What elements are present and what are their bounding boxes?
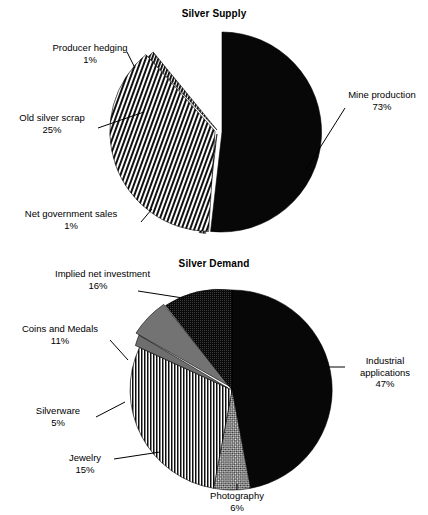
demand-label-industrial-applications-percent: 47% — [344, 378, 426, 390]
demand-label-silverware-percent: 5% — [22, 417, 94, 429]
supply-slice-old-silver-scrap — [110, 55, 215, 232]
demand-label-jewelry: Jewelry 15% — [58, 452, 112, 475]
supply-label-old-silver-scrap: Old silver scrap 25% — [0, 112, 104, 135]
leader-line-coins-and-medals — [110, 340, 128, 360]
silver-supply-demand-figure: Silver Supply — [0, 0, 428, 515]
demand-label-implied-net-investment-percent: 16% — [55, 280, 141, 292]
supply-label-producer-hedging-name: Producer hedging — [53, 42, 128, 53]
demand-label-photography-percent: 6% — [188, 502, 286, 514]
demand-slice-industrial-applications — [232, 290, 332, 488]
demand-label-implied-net-investment: Implied net investment 16% — [55, 268, 141, 291]
demand-label-jewelry-percent: 15% — [58, 464, 112, 476]
supply-label-old-silver-scrap-percent: 25% — [0, 124, 104, 136]
leader-line-silverware — [96, 402, 125, 417]
supply-label-net-government-sales-name: Net government sales — [25, 208, 117, 219]
supply-label-mine-production-percent: 73% — [337, 101, 427, 113]
demand-label-coins-and-medals-percent: 11% — [8, 335, 112, 347]
supply-label-mine-production-name: Mine production — [348, 89, 416, 100]
leader-line-net-government-sales — [141, 209, 152, 222]
demand-label-coins-and-medals: Coins and Medals 11% — [8, 323, 112, 346]
supply-label-old-silver-scrap-name: Old silver scrap — [19, 112, 84, 123]
supply-label-net-government-sales-percent: 1% — [5, 220, 137, 232]
demand-label-photography-name: Photography — [210, 490, 264, 501]
supply-label-producer-hedging: Producer hedging 1% — [30, 42, 150, 65]
demand-label-industrial-applications: Industrial applications 47% — [344, 355, 426, 390]
supply-label-net-government-sales: Net government sales 1% — [5, 208, 137, 231]
leader-line-jewelry — [114, 452, 160, 459]
demand-label-implied-net-investment-line1: Implied net investment — [55, 268, 150, 279]
leader-line-implied-net-investment — [138, 291, 183, 298]
demand-label-jewelry-name: Jewelry — [69, 452, 101, 463]
demand-label-silverware-name: Silverware — [36, 405, 80, 416]
demand-label-silverware: Silverware 5% — [22, 405, 94, 428]
demand-label-industrial-applications-name: Industrial applications — [360, 355, 410, 378]
demand-label-coins-and-medals-name: Coins and Medals — [22, 323, 98, 334]
demand-label-photography: Photography 6% — [188, 490, 286, 513]
supply-label-producer-hedging-percent: 1% — [30, 54, 150, 66]
supply-slice-mine-production — [211, 32, 322, 232]
supply-label-mine-production: Mine production 73% — [337, 89, 427, 112]
